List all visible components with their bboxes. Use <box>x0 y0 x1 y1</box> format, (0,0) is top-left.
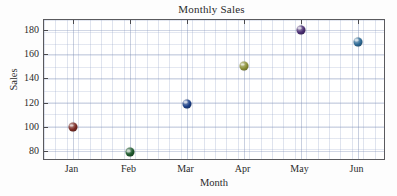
x-axis-tick-labels: JanFebMarAprMayJun <box>43 163 385 177</box>
x-axis-tick-label: Jan <box>65 163 78 174</box>
data-point <box>182 99 191 108</box>
x-axis-tick <box>301 20 302 24</box>
plot-area <box>43 19 385 160</box>
y-axis-tick-label: 140 <box>24 72 39 83</box>
y-axis-tick <box>44 30 48 31</box>
gridline-horizontal <box>44 103 384 104</box>
chart-figure: Monthly Sales 80100120140160180 JanFebMa… <box>0 0 397 196</box>
x-axis-tick-label: Feb <box>121 163 136 174</box>
x-axis-tick <box>244 20 245 24</box>
major-gridlines <box>44 20 384 159</box>
y-axis-tick-label: 100 <box>24 120 39 131</box>
gridline-vertical <box>130 20 131 159</box>
gridline-horizontal <box>44 151 384 152</box>
y-axis-tick-label: 180 <box>24 23 39 34</box>
x-axis-tick-label: Apr <box>235 163 251 174</box>
gridline-vertical <box>244 20 245 159</box>
chart-title: Monthly Sales <box>0 3 397 15</box>
gridline-vertical <box>301 20 302 159</box>
y-axis-tick <box>44 127 48 128</box>
y-axis-tick-label: 80 <box>29 145 39 156</box>
gridline-vertical <box>73 20 74 159</box>
x-axis-tick <box>73 20 74 24</box>
x-axis-tick-label: Jun <box>350 163 364 174</box>
gridline-horizontal <box>44 54 384 55</box>
y-axis-tick <box>44 151 48 152</box>
gridline-horizontal <box>44 78 384 79</box>
data-point <box>296 25 305 34</box>
minor-gridlines <box>44 20 384 159</box>
data-point <box>68 122 77 131</box>
x-axis-tick <box>130 20 131 24</box>
gridline-horizontal <box>44 127 384 128</box>
gridline-vertical <box>187 20 188 159</box>
y-axis-title: Sales <box>8 50 19 110</box>
y-axis-tick <box>44 78 48 79</box>
x-axis-title: Month <box>43 177 385 188</box>
x-axis-tick <box>187 20 188 24</box>
x-axis-tick-label: May <box>290 163 308 174</box>
y-axis-tick <box>44 103 48 104</box>
gridline-horizontal <box>44 30 384 31</box>
data-point <box>353 37 362 46</box>
data-point <box>125 148 134 157</box>
x-axis-tick-label: Mar <box>177 163 194 174</box>
data-point <box>239 62 248 71</box>
y-axis-tick <box>44 54 48 55</box>
y-axis-tick-label: 120 <box>24 96 39 107</box>
x-axis-tick <box>358 20 359 24</box>
y-axis-tick-label: 160 <box>24 48 39 59</box>
